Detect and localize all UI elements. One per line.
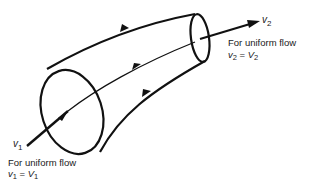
- outlet-uniform-flow-note: For uniform flow: [228, 37, 296, 48]
- stream-tube-diagram: v1 For uniform flow v1 = V1 v2 For unifo…: [0, 0, 310, 183]
- inlet-uniform-flow-equation: v1 = V1: [8, 168, 38, 181]
- inlet-uniform-flow-note: For uniform flow: [8, 157, 76, 168]
- outlet-velocity-label: v2: [262, 14, 272, 28]
- inlet-velocity-label: v1: [13, 138, 23, 152]
- outlet-flow-arrow-icon: [247, 20, 260, 28]
- inlet-cross-section: [30, 62, 114, 162]
- outlet-uniform-flow-equation: v2 = V2: [228, 49, 258, 62]
- upper-boundary-streamline: [47, 14, 195, 69]
- lower-boundary-streamline: [100, 61, 205, 152]
- central-streamline-inner: [68, 42, 195, 111]
